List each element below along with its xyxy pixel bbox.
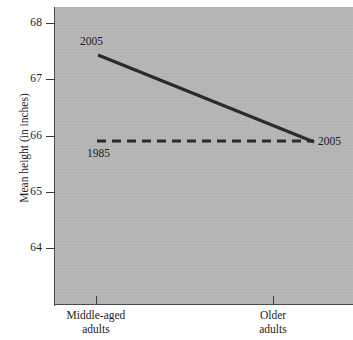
- series-layer: [0, 0, 353, 340]
- series-annotation-1985: 1985: [87, 148, 110, 160]
- series-line-2005-solid: [98, 55, 314, 142]
- chart-figure: 68 67 66 65 64 Middle-aged adults Older …: [0, 0, 353, 340]
- series-annotation-2005-right: 2005: [318, 136, 341, 148]
- series-annotation-2005-left: 2005: [80, 36, 103, 48]
